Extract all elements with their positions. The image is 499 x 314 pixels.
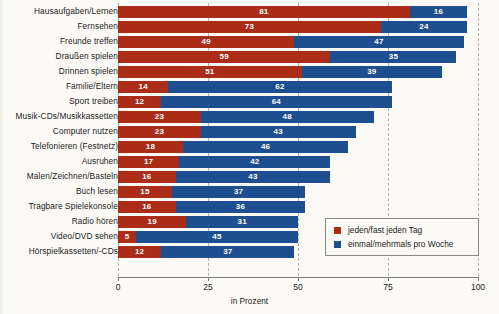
bar-value-label: 45 xyxy=(136,231,298,243)
bar-value-label: 64 xyxy=(161,96,391,108)
bar-segment-weekly: 16 xyxy=(410,6,468,18)
bar-value-label: 16 xyxy=(410,6,468,18)
category-label: Sport treiben xyxy=(69,95,118,110)
bar-segment-weekly: 45 xyxy=(136,231,298,243)
stacked-bar: 8116 xyxy=(118,6,478,18)
category-label: Familie/Eltern xyxy=(66,80,118,95)
bar-segment-daily: 15 xyxy=(118,186,172,198)
bar-value-label: 62 xyxy=(168,81,391,93)
bar-segment-weekly: 46 xyxy=(183,141,349,153)
stacked-bar: 5139 xyxy=(118,66,478,78)
bar-segment-weekly: 43 xyxy=(201,126,356,138)
category-label: Malen/Zeichnen/Basteln xyxy=(27,170,118,185)
stacked-bar: 1643 xyxy=(118,171,478,183)
category-label: Ausruhen xyxy=(82,155,118,170)
bar-segment-daily: 59 xyxy=(118,51,330,63)
category-label: Hörspielkassetten/-CDs xyxy=(29,245,118,260)
bar-value-label: 16 xyxy=(118,201,176,213)
bar-row: Malen/Zeichnen/Basteln1643 xyxy=(0,170,499,185)
bar-segment-weekly: 48 xyxy=(201,111,374,123)
bar-value-label: 15 xyxy=(118,186,172,198)
x-tick-label-50: 50 xyxy=(293,282,302,292)
x-tick-label-0: 0 xyxy=(116,282,121,292)
bar-segment-daily: 12 xyxy=(118,96,161,108)
bar-segment-daily: 81 xyxy=(118,6,410,18)
x-tick-50 xyxy=(298,277,299,281)
bar-segment-weekly: 36 xyxy=(176,201,306,213)
bar-value-label: 31 xyxy=(186,216,298,228)
bar-value-label: 37 xyxy=(172,186,305,198)
bar-row: Hausaufgaben/Lernen8116 xyxy=(0,5,499,20)
category-label: Freunde treffen xyxy=(60,35,118,50)
stacked-bar: 2348 xyxy=(118,111,478,123)
x-tick-0 xyxy=(118,277,119,281)
bar-value-label: 48 xyxy=(201,111,374,123)
legend-item-woechentlich: einmal/mehrmals pro Woche xyxy=(334,237,478,251)
bar-segment-daily: 49 xyxy=(118,36,294,48)
bar-segment-weekly: 39 xyxy=(302,66,442,78)
bar-segment-weekly: 43 xyxy=(176,171,331,183)
bar-row: Buch lesen1537 xyxy=(0,185,499,200)
legend-label-taeglich: jeden/fast jeden Tag xyxy=(348,225,422,235)
bar-value-label: 51 xyxy=(118,66,302,78)
bar-segment-weekly: 64 xyxy=(161,96,391,108)
stacked-bar: 1742 xyxy=(118,156,478,168)
bar-value-label: 35 xyxy=(330,51,456,63)
stacked-bar: 4947 xyxy=(118,36,478,48)
x-tick-label-75: 75 xyxy=(383,282,392,292)
category-label: Buch lesen xyxy=(76,185,118,200)
bar-row: Drinnen spielen5139 xyxy=(0,65,499,80)
chart-legend: jeden/fast jeden Tag einmal/mehrmals pro… xyxy=(325,218,479,256)
bar-value-label: 36 xyxy=(176,201,306,213)
bar-segment-weekly: 37 xyxy=(161,246,294,258)
bar-row: Computer nutzen2343 xyxy=(0,125,499,140)
bar-value-label: 43 xyxy=(201,126,356,138)
bar-value-label: 23 xyxy=(118,126,201,138)
bar-value-label: 46 xyxy=(183,141,349,153)
category-label: Video/DVD sehen xyxy=(51,230,118,245)
category-label: Hausaufgaben/Lernen xyxy=(34,5,118,20)
bar-segment-weekly: 47 xyxy=(294,36,463,48)
legend-swatch-red-icon xyxy=(334,227,341,234)
category-label: Draußen spielen xyxy=(56,50,118,65)
bar-value-label: 5 xyxy=(118,231,136,243)
bar-value-label: 14 xyxy=(118,81,168,93)
stacked-bar: 1537 xyxy=(118,186,478,198)
stacked-bar: 2343 xyxy=(118,126,478,138)
bar-segment-weekly: 24 xyxy=(381,21,467,33)
bar-value-label: 73 xyxy=(118,21,381,33)
bar-value-label: 12 xyxy=(118,96,161,108)
bar-row: Freunde treffen4947 xyxy=(0,35,499,50)
x-axis-title: in Prozent xyxy=(0,296,499,306)
bar-value-label: 24 xyxy=(381,21,467,33)
legend-label-woechentlich: einmal/mehrmals pro Woche xyxy=(348,239,453,249)
bar-row: Telefonieren (Festnetz)1846 xyxy=(0,140,499,155)
bar-value-label: 23 xyxy=(118,111,201,123)
bar-segment-weekly: 31 xyxy=(186,216,298,228)
bar-row: Musik-CDs/Musikkassetten2348 xyxy=(0,110,499,125)
bar-segment-daily: 14 xyxy=(118,81,168,93)
category-label: Drinnen spielen xyxy=(59,65,118,80)
bar-value-label: 17 xyxy=(118,156,179,168)
bar-segment-daily: 16 xyxy=(118,171,176,183)
bar-row: Tragbare Spielekonsole1636 xyxy=(0,200,499,215)
bar-segment-daily: 51 xyxy=(118,66,302,78)
bar-value-label: 43 xyxy=(176,171,331,183)
stacked-bar: 5935 xyxy=(118,51,478,63)
stacked-bar: 1264 xyxy=(118,96,478,108)
bar-row: Fernsehen7324 xyxy=(0,20,499,35)
x-tick-label-100: 100 xyxy=(471,282,485,292)
bar-value-label: 39 xyxy=(302,66,442,78)
bar-segment-weekly: 62 xyxy=(168,81,391,93)
bar-segment-daily: 23 xyxy=(118,126,201,138)
category-label: Radio hören xyxy=(72,215,118,230)
bar-row: Sport treiben1264 xyxy=(0,95,499,110)
bar-value-label: 49 xyxy=(118,36,294,48)
stacked-bar: 7324 xyxy=(118,21,478,33)
legend-item-taeglich: jeden/fast jeden Tag xyxy=(334,223,478,237)
category-label: Fernsehen xyxy=(77,20,118,35)
category-label: Computer nutzen xyxy=(53,125,118,140)
bar-value-label: 47 xyxy=(294,36,463,48)
x-tick-75 xyxy=(388,277,389,281)
category-label: Musik-CDs/Musikkassetten xyxy=(16,110,118,125)
